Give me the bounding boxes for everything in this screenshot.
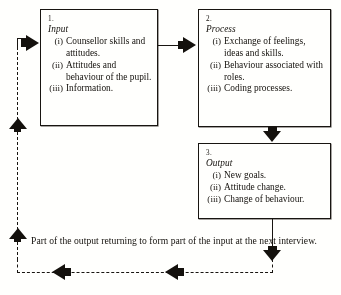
box-input-content: 1. Input (i) Counsellor skills and attit… xyxy=(41,10,157,95)
item-text: Attitudes and behaviour of the pupil. xyxy=(66,60,153,83)
box-process-content: 2. Process (i) Exchange of feelings, ide… xyxy=(199,10,330,95)
box-process-items: (i) Exchange of feelings, ideas and skil… xyxy=(206,36,326,95)
list-item: (iii) Information. xyxy=(48,83,153,95)
item-text: Change of behaviour. xyxy=(224,194,326,206)
feedback-caption: Part of the output returning to form par… xyxy=(24,235,324,247)
arrow-tail xyxy=(177,268,184,276)
item-marker: (iii) xyxy=(206,194,221,205)
arrowhead-into-input xyxy=(26,35,39,51)
item-marker: (i) xyxy=(48,36,63,47)
box-process: 2. Process (i) Exchange of feelings, ide… xyxy=(198,9,331,127)
box-output-content: 3. Output (i) New goals. (ii) Attitude c… xyxy=(199,144,330,206)
item-text: Attitude change. xyxy=(224,182,326,194)
item-marker: (ii) xyxy=(206,182,221,193)
item-text: Behaviour associated with roles. xyxy=(224,60,326,83)
list-item: (i) Exchange of feelings, ideas and skil… xyxy=(206,36,326,59)
diagram-canvas: 1. Input (i) Counsellor skills and attit… xyxy=(0,0,341,295)
box-input-number: 1. xyxy=(48,15,153,23)
box-process-number: 2. xyxy=(206,15,326,23)
arrow-tail xyxy=(64,268,71,276)
arrowhead-output-descend xyxy=(263,250,281,261)
arrowhead-into-output xyxy=(263,131,281,142)
item-marker: (i) xyxy=(206,36,221,47)
item-text: Exchange of feelings, ideas and skills. xyxy=(224,36,326,59)
list-item: (i) New goals. xyxy=(206,170,326,182)
list-item: (ii) Behaviour associated with roles. xyxy=(206,60,326,83)
box-process-title: Process xyxy=(206,24,326,35)
arrowhead-feedback-left-middle xyxy=(165,264,178,280)
item-text: Coding processes. xyxy=(224,83,326,95)
list-item: (iii) Coding processes. xyxy=(206,83,326,95)
box-output-items: (i) New goals. (ii) Attitude change. (ii… xyxy=(206,170,326,205)
list-item: (ii) Attitude change. xyxy=(206,182,326,194)
feedback-path-corner-bottom-right xyxy=(272,259,273,273)
arrowhead-feedback-up-middle xyxy=(9,118,27,129)
list-item: (ii) Attitudes and behaviour of the pupi… xyxy=(48,60,153,83)
item-marker: (iii) xyxy=(206,83,221,94)
box-input-items: (i) Counsellor skills and attitudes. (ii… xyxy=(48,36,153,95)
feedback-path-corner-bottom-left xyxy=(17,259,18,273)
box-output: 3. Output (i) New goals. (ii) Attitude c… xyxy=(198,143,331,219)
box-output-title: Output xyxy=(206,158,326,169)
box-input: 1. Input (i) Counsellor skills and attit… xyxy=(40,9,158,126)
box-output-number: 3. xyxy=(206,149,326,157)
list-item: (iii) Change of behaviour. xyxy=(206,194,326,206)
arrowhead-into-process xyxy=(183,37,196,53)
item-marker: (ii) xyxy=(48,60,63,71)
item-marker: (i) xyxy=(206,170,221,181)
arrowhead-feedback-left-near xyxy=(52,264,65,280)
item-text: New goals. xyxy=(224,170,326,182)
list-item: (i) Counsellor skills and attitudes. xyxy=(48,36,153,59)
item-text: Information. xyxy=(66,83,153,95)
item-text: Counsellor skills and attitudes. xyxy=(66,36,153,59)
item-marker: (iii) xyxy=(48,83,63,94)
item-marker: (ii) xyxy=(206,60,221,71)
box-input-title: Input xyxy=(48,24,153,35)
